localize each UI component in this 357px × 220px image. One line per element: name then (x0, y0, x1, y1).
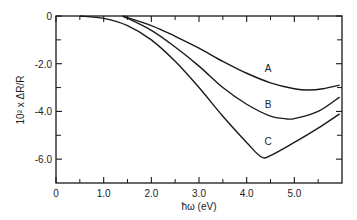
chart-axes (56, 16, 342, 183)
y-tick-label: 0 (46, 11, 52, 22)
x-axis-title: ħω (eV) (181, 201, 216, 212)
curve-labels: ABC (264, 63, 271, 147)
curve-label-c: C (264, 136, 271, 147)
x-tick-label: 2.0 (144, 188, 158, 199)
curve-a (123, 16, 340, 90)
curve-c (80, 16, 340, 158)
plot-frame (56, 16, 342, 183)
chart-ticks: 01.02.03.04.05.00-2.0-4.0-6.0 (35, 11, 342, 199)
x-tick-label: 5.0 (287, 188, 301, 199)
y-axis-title: 10² x ΔR/R (15, 76, 26, 125)
y-tick-label: -2.0 (35, 59, 53, 70)
y-tick-label: -6.0 (35, 154, 53, 165)
chart-curves (80, 16, 340, 158)
curve-label-a: A (265, 63, 272, 74)
x-tick-label: 0 (53, 188, 59, 199)
curve-b (123, 16, 340, 119)
reflectance-chart: 01.02.03.04.05.00-2.0-4.0-6.0 ABC ħω (eV… (0, 0, 357, 220)
x-tick-label: 4.0 (240, 188, 254, 199)
x-tick-label: 3.0 (192, 188, 206, 199)
y-tick-label: -4.0 (35, 106, 53, 117)
curve-label-b: B (265, 99, 272, 110)
x-tick-label: 1.0 (97, 188, 111, 199)
